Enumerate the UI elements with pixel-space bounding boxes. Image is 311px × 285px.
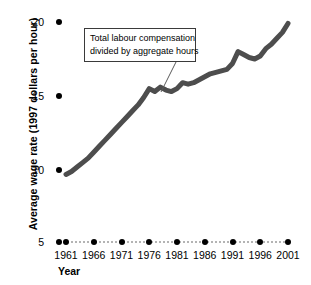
chart-figure: Average wage rate (1997 dollars per hour… [0,0,311,285]
x-tick-dot [119,239,125,245]
x-tick-dot [285,239,291,245]
x-tick-dot [202,239,208,245]
callout-leader-line [161,62,176,92]
x-tick-dot [257,239,263,245]
x-axis [66,239,289,245]
series-callout-box: Total labour compensation divided by agg… [84,28,196,62]
x-tick-label-1991: 1991 [221,249,244,261]
x-axis-title: Year [58,265,80,277]
x-tick-label-1971: 1971 [110,249,133,261]
callout-line-2: divided by aggregate hours [90,45,191,58]
x-tick-label-1976: 1976 [138,249,161,261]
x-tick-label-1996: 1996 [249,249,272,261]
x-tick-label-2001: 2001 [276,249,299,261]
x-tick-dot [174,239,180,245]
x-tick-dot [146,239,152,245]
x-tick-dot [63,239,69,245]
x-tick-label-1961: 1961 [54,249,77,261]
x-tick-label-1981: 1981 [165,249,188,261]
callout-line-1: Total labour compensation [90,32,191,45]
x-tick-label-1986: 1986 [193,249,216,261]
x-tick-dot [230,239,236,245]
x-tick-label-1966: 1966 [82,249,105,261]
x-tick-dot [91,239,97,245]
